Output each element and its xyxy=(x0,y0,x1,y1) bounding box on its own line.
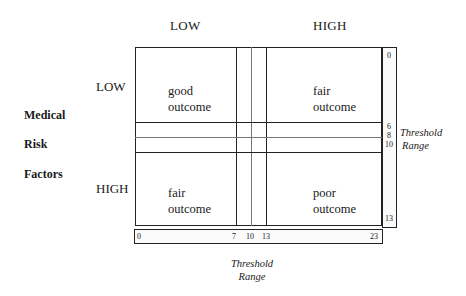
cell-text-line: outcome xyxy=(168,99,211,115)
cell-text-line: outcome xyxy=(168,201,211,217)
threshold-label-line: Threshold xyxy=(400,126,442,139)
cell-text-line: good xyxy=(168,83,211,99)
threshold-line-y-8 xyxy=(135,137,382,138)
vertical-threshold-label: Threshold Range xyxy=(400,126,442,152)
cell-text-line: outcome xyxy=(313,201,356,217)
cell-fair-outcome-top: fair outcome xyxy=(313,83,356,115)
cell-text-line: outcome xyxy=(313,99,356,115)
horizontal-tick-0: 0 xyxy=(137,232,141,241)
vertical-tick-8: 8 xyxy=(387,131,391,140)
threshold-label-line: Threshold xyxy=(230,257,274,270)
threshold-label-line: Range xyxy=(230,270,274,283)
horizontal-threshold-label: Threshold Range xyxy=(230,257,274,283)
row-axis-title-factors: Factors xyxy=(24,167,63,182)
horizontal-tick-10: 10 xyxy=(246,232,254,241)
threshold-line-y-10 xyxy=(135,152,382,153)
row-header-low: LOW xyxy=(96,79,126,95)
vertical-tick-13: 13 xyxy=(385,214,393,223)
threshold-line-y-6 xyxy=(135,122,382,123)
horizontal-tick-13: 13 xyxy=(262,232,270,241)
column-header-low: LOW xyxy=(170,18,201,34)
vertical-tick-0: 0 xyxy=(387,51,391,60)
cell-text-line: fair xyxy=(313,83,356,99)
row-header-high: HIGH xyxy=(96,181,129,197)
vertical-tick-10: 10 xyxy=(385,140,393,149)
column-header-high: HIGH xyxy=(313,18,347,34)
horizontal-threshold-scale xyxy=(134,229,383,244)
cell-poor-outcome: poor outcome xyxy=(313,185,356,217)
row-axis-title-risk: Risk xyxy=(24,137,47,152)
horizontal-tick-7: 7 xyxy=(232,232,236,241)
cell-fair-outcome-bottom: fair outcome xyxy=(168,185,211,217)
horizontal-tick-23: 23 xyxy=(370,232,378,241)
cell-text-line: fair xyxy=(168,185,211,201)
threshold-label-line: Range xyxy=(400,139,442,152)
vertical-tick-6: 6 xyxy=(387,122,391,131)
cell-good-outcome: good outcome xyxy=(168,83,211,115)
row-axis-title-medical: Medical xyxy=(24,108,65,123)
cell-text-line: poor xyxy=(313,185,356,201)
